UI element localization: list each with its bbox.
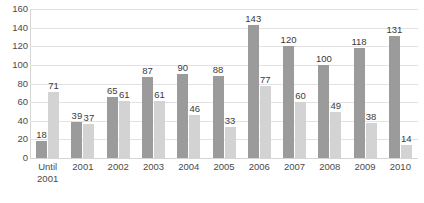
bar-series-1-1 bbox=[71, 122, 82, 158]
gridline-0 bbox=[30, 158, 418, 159]
bar-chart: 160140120100806040200 187139376561876190… bbox=[0, 0, 424, 203]
y-tick-label-80: 80 bbox=[2, 79, 28, 89]
x-tick-label: 2002 bbox=[101, 161, 136, 173]
y-tick-label-20: 20 bbox=[2, 134, 28, 144]
bar-value-label: 143 bbox=[243, 14, 264, 24]
bar-series-2-2 bbox=[119, 101, 130, 158]
bar-value-label: 60 bbox=[290, 91, 311, 101]
bar-group: 6561 bbox=[107, 9, 130, 158]
bar-group: 8833 bbox=[213, 9, 236, 158]
bar-value-label: 120 bbox=[278, 35, 299, 45]
bar-value-label: 14 bbox=[396, 134, 417, 144]
plot-area: 1871393765618761904688331437712060100491… bbox=[30, 9, 418, 158]
y-tick-label-120: 120 bbox=[2, 41, 28, 51]
bar-series-2-1 bbox=[83, 124, 94, 158]
bar-group: 10049 bbox=[318, 9, 341, 158]
y-tick-label-160: 160 bbox=[2, 4, 28, 14]
x-tick-label: 2009 bbox=[347, 161, 382, 173]
x-tick-label: 2005 bbox=[206, 161, 241, 173]
bar-series-2-4 bbox=[189, 115, 200, 158]
bar-value-label: 49 bbox=[325, 101, 346, 111]
bar-series-2-0 bbox=[48, 92, 59, 158]
bar-series-1-7 bbox=[283, 46, 294, 158]
bar-series-2-10 bbox=[401, 145, 412, 158]
bar-group: 8761 bbox=[142, 9, 165, 158]
bar-value-label: 90 bbox=[172, 63, 193, 73]
bar-value-label: 71 bbox=[43, 81, 64, 91]
y-axis-tick-labels: 160140120100806040200 bbox=[0, 0, 28, 203]
y-tick-label-0: 0 bbox=[2, 153, 28, 163]
bar-value-label: 33 bbox=[220, 116, 241, 126]
x-axis-tick-labels: Until 2001200120022003200420052006200720… bbox=[30, 161, 418, 203]
bar-value-label: 118 bbox=[349, 37, 370, 47]
bar-series-2-5 bbox=[225, 127, 236, 158]
bar-series-2-8 bbox=[330, 112, 341, 158]
bar-group: 12060 bbox=[283, 9, 306, 158]
x-tick-label: 2007 bbox=[277, 161, 312, 173]
x-tick-label: 2008 bbox=[312, 161, 347, 173]
bar-series-1-8 bbox=[318, 65, 329, 158]
bar-value-label: 46 bbox=[184, 104, 205, 114]
bar-value-label: 38 bbox=[361, 112, 382, 122]
bar-series-2-3 bbox=[154, 101, 165, 158]
bar-series-1-2 bbox=[107, 97, 118, 158]
bar-group: 11838 bbox=[354, 9, 377, 158]
bar-series-1-3 bbox=[142, 77, 153, 158]
bar-series-1-4 bbox=[177, 74, 188, 158]
bar-value-label: 131 bbox=[384, 25, 405, 35]
y-tick-label-100: 100 bbox=[2, 60, 28, 70]
bar-value-label: 87 bbox=[137, 66, 158, 76]
bar-value-label: 61 bbox=[114, 90, 135, 100]
bar-series-2-7 bbox=[295, 102, 306, 158]
x-tick-label: 2004 bbox=[171, 161, 206, 173]
bar-value-label: 100 bbox=[313, 54, 334, 64]
bar-series-1-0 bbox=[36, 141, 47, 158]
y-tick-label-140: 140 bbox=[2, 23, 28, 33]
bar-group: 13114 bbox=[389, 9, 412, 158]
bar-value-label: 61 bbox=[149, 90, 170, 100]
bar-value-label: 77 bbox=[255, 75, 276, 85]
x-tick-label: Until 2001 bbox=[30, 161, 65, 184]
bar-value-label: 37 bbox=[78, 113, 99, 123]
bar-series-2-9 bbox=[366, 123, 377, 158]
y-tick-label-40: 40 bbox=[2, 116, 28, 126]
y-tick-label-60: 60 bbox=[2, 97, 28, 107]
bar-group: 14377 bbox=[248, 9, 271, 158]
x-tick-label: 2010 bbox=[383, 161, 418, 173]
bar-group: 1871 bbox=[36, 9, 59, 158]
bar-group: 9046 bbox=[177, 9, 200, 158]
bar-series-2-6 bbox=[260, 86, 271, 158]
bar-series-1-6 bbox=[248, 25, 259, 158]
x-tick-label: 2003 bbox=[136, 161, 171, 173]
bar-group: 3937 bbox=[71, 9, 94, 158]
x-tick-label: 2006 bbox=[242, 161, 277, 173]
bar-value-label: 88 bbox=[208, 65, 229, 75]
x-tick-label: 2001 bbox=[65, 161, 100, 173]
bar-series-1-9 bbox=[354, 48, 365, 158]
